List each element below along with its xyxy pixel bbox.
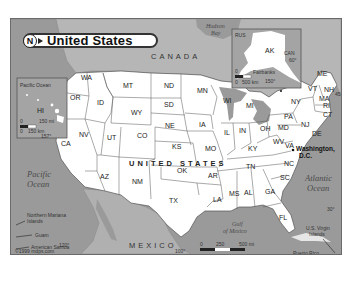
state-label-in: IN [239,127,246,134]
pacific-ocean-label: Pacific [26,169,51,179]
state-label-va: VA [285,142,294,149]
state-label-al: AL [244,189,253,196]
state-label-md: MD [278,124,289,131]
state-label-mn: MN [197,87,208,94]
state-label-nv: NV [79,131,89,138]
hi-scale-mi: 150 mi [39,118,54,124]
state-label-ut: UT [107,134,117,141]
hi-scale-mi-0: 0 [20,118,23,124]
state-label-nj: NJ [301,121,310,128]
state-label-id: ID [97,99,104,106]
state-label-wy: WY [131,109,143,116]
pacific-ocean-label-2: Ocean [27,179,49,189]
us-map: 45° 30° 120° 100° CANADA MEXICO UNITED S… [10,18,342,255]
state-label-ks: KS [172,143,182,150]
gulf-label: Gulf [232,221,244,227]
page-title: United States [47,33,133,48]
washington-label-2: D.C. [299,152,312,159]
scale-mi-500: 500 mi [239,241,254,247]
state-label-vt: VT [308,85,318,92]
state-label-de: DE [312,130,322,137]
fairbanks-label: Fairbanks [253,69,275,75]
state-label-fl: FL [279,214,287,221]
ak-lat-label: 60° [289,57,297,63]
state-label-ia: IA [199,121,206,128]
state-label-or: OR [70,94,81,101]
ak-lon-label: 150° [265,78,275,84]
ak-label: AK [265,47,275,54]
ak-scale-km-0: 0 [235,79,238,85]
hawaii-inset: Pacific Ocean HI 0 150 mi 0 150 km 157° [17,78,67,139]
hi-scale-km-0: 0 [20,128,23,134]
state-label-nd: ND [164,82,174,89]
state-label-il: IL [224,129,230,136]
state-label-ne: NE [165,122,175,129]
ak-scale-km: 500 km [242,79,258,85]
north-arrow-icon [38,38,43,44]
north-indicator: N [23,34,37,48]
mexico-label: MEXICO [129,241,177,250]
state-label-nc: NC [284,160,294,167]
ak-scale-mi-0: 0 [235,68,238,74]
state-label-tn: TN [246,163,255,170]
state-label-mi: MI [246,102,254,109]
copyright-label: ©1999 mdps.com [15,248,54,254]
puerto-rico-label: Puerto Rico [293,250,319,254]
state-label-ms: MS [229,190,240,197]
scale-mi-0: 0 [200,241,203,247]
guam-label: Guam [35,232,49,238]
can-label: CAN [284,50,295,56]
hudson-bay-label-2: Bay [211,30,221,36]
state-label-ri: RI [323,102,330,109]
map-canvas: 45° 30° 120° 100° CANADA MEXICO UNITED S… [11,19,341,254]
state-label-wv: WV [273,138,285,145]
lat-30-label: 30° [327,206,335,212]
canada-label: CANADA [151,52,200,61]
ottawa-dot [280,90,282,92]
state-label-me: ME [317,70,328,77]
state-label-ca: CA [61,140,71,147]
state-label-mo: MO [205,145,217,152]
state-label-mt: MT [123,82,134,89]
state-label-co: CO [137,132,148,139]
state-label-ky: KY [248,145,258,152]
state-label-pa: PA [284,113,293,120]
state-label-ar: AR [208,172,218,179]
state-label-ma: MA [319,95,330,102]
usvi-label-2: Islands [309,231,325,237]
hi-lon-label: 157° [41,133,51,139]
state-label-sd: SD [164,101,174,108]
state-label-wi: WI [223,97,232,104]
state-label-az: AZ [100,173,110,180]
washington-dot [292,149,295,152]
hi-ocean-label: Pacific Ocean [20,82,51,88]
state-label-ny: NY [291,98,301,105]
state-label-oh: OH [260,125,271,132]
state-label-ct: CT [323,111,333,118]
alaska-inset: RUS AK CAN 60° Fairbanks 150° 0 0 500 km [232,29,301,88]
hi-label: HI [37,107,44,114]
lat-45-label: 45° [335,91,341,97]
nmi-label-2: Islands [27,218,43,224]
gulf-label-2: of Mexico [223,228,247,234]
state-label-nm: NM [132,178,143,185]
state-label-ok: OK [177,167,187,174]
state-label-wa: WA [81,74,92,81]
state-label-sc: SC [280,174,290,181]
scale-mi-250: 250 [216,241,225,247]
map-title: N United States [23,33,158,48]
rus-label: RUS [235,32,246,38]
atlantic-ocean-label: Atlantic [304,173,332,183]
north-letter: N [27,36,34,46]
state-label-la: LA [213,196,222,203]
atlantic-ocean-label-2: Ocean [307,183,329,193]
state-label-nh: NH [324,86,334,93]
scale-bar: 0 250 500 mi [200,241,254,251]
state-label-tx: TX [169,197,178,204]
hudson-bay-label: Hudson [205,23,225,29]
state-label-ga: GA [265,188,275,195]
